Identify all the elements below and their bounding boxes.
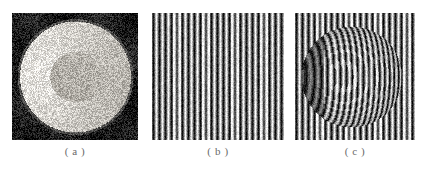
panel-b-reference-fringes <box>152 13 284 140</box>
panel-c-deformed-fringes <box>295 13 415 140</box>
panel-a-caption: ( a ) <box>35 145 115 157</box>
panel-c-caption: ( c ) <box>315 145 395 157</box>
panel-b-canvas <box>152 13 284 140</box>
panel-c-canvas <box>295 13 415 140</box>
panel-a-canvas <box>12 13 138 140</box>
panel-b-caption: ( b ) <box>178 145 258 157</box>
figure-container: ( a ) ( b ) ( c ) <box>0 0 428 170</box>
panel-a-sphere-photograph <box>12 13 138 140</box>
